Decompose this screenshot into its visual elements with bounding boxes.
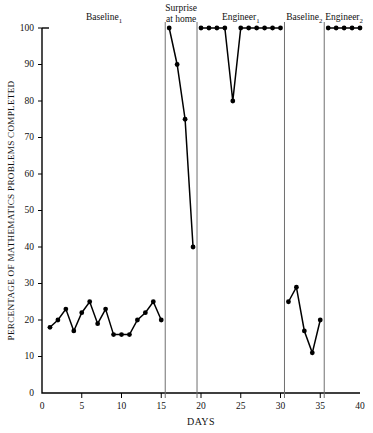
- phase-divider-lines: [165, 22, 324, 398]
- data-point-marker: [63, 307, 68, 312]
- series-line-engineer₁: [201, 28, 281, 101]
- data-point-marker: [310, 350, 315, 355]
- y-axis-tick-label: 20: [25, 315, 35, 325]
- phase-label: Baseline2: [286, 12, 323, 24]
- phase-label-line1: Surprise: [165, 3, 197, 13]
- x-axis-ticks: 0510152025303540: [40, 393, 365, 411]
- y-axis-tick-label: 40: [25, 242, 35, 252]
- phase-label: Engineer1: [222, 12, 260, 24]
- data-point-marker: [151, 299, 156, 304]
- data-point-marker: [270, 26, 275, 31]
- y-axis-ticks: 0102030405060708090100: [20, 23, 42, 398]
- data-point-marker: [183, 117, 188, 122]
- phase-label-line2: at home: [166, 14, 196, 24]
- y-axis-tick-label: 10: [25, 351, 35, 361]
- data-series-group: [48, 26, 363, 356]
- data-point-marker: [334, 26, 339, 31]
- data-point-marker: [79, 310, 84, 315]
- data-point-marker: [167, 26, 172, 31]
- data-point-marker: [350, 26, 355, 31]
- data-point-marker: [358, 26, 363, 31]
- series-line-baseline₂: [288, 287, 320, 353]
- data-point-marker: [159, 318, 164, 323]
- data-point-marker: [191, 245, 196, 250]
- axis-spines: [42, 28, 360, 393]
- x-axis-tick-label: 15: [157, 401, 167, 411]
- data-point-marker: [119, 332, 124, 337]
- data-point-marker: [286, 299, 291, 304]
- y-axis-tick-label: 80: [25, 96, 35, 106]
- data-point-marker: [215, 26, 220, 31]
- data-point-marker: [111, 332, 116, 337]
- data-point-marker: [71, 329, 76, 334]
- data-point-marker: [143, 310, 148, 315]
- data-point-marker: [318, 318, 323, 323]
- y-axis-title: PERCENTAGE OF MATHEMATICS PROBLEMS COMPL…: [6, 80, 16, 340]
- x-axis-tick-label: 25: [236, 401, 246, 411]
- data-point-marker: [56, 318, 61, 323]
- y-axis-tick-label: 30: [25, 278, 35, 288]
- data-point-marker: [342, 26, 347, 31]
- y-axis-tick-label: 100: [20, 23, 35, 33]
- data-point-marker: [87, 299, 92, 304]
- x-axis-tick-label: 40: [355, 401, 365, 411]
- y-axis-tick-label: 70: [25, 132, 35, 142]
- x-axis-tick-label: 10: [117, 401, 127, 411]
- x-axis-tick-label: 0: [40, 401, 45, 411]
- x-axis-tick-label: 30: [276, 401, 286, 411]
- data-point-marker: [326, 26, 331, 31]
- y-axis-tick-label: 60: [25, 169, 35, 179]
- data-point-marker: [222, 26, 227, 31]
- y-axis-tick-label: 90: [25, 59, 35, 69]
- y-axis-tick-label: 50: [25, 205, 35, 215]
- data-point-marker: [230, 99, 235, 104]
- data-point-marker: [278, 26, 283, 31]
- series-line-surprise-at-home: [169, 28, 193, 247]
- data-point-marker: [95, 321, 100, 326]
- x-axis-tick-label: 5: [79, 401, 84, 411]
- data-point-marker: [135, 318, 140, 323]
- phase-label: Baseline1: [86, 12, 122, 24]
- axes-group: [42, 28, 360, 393]
- phase-label: Engineer2: [325, 12, 363, 24]
- data-point-marker: [254, 26, 259, 31]
- line-chart-svg: 0102030405060708090100 0510152025303540 …: [0, 0, 373, 433]
- phase-labels-group: Baseline1Surpriseat homeEngineer1Baselin…: [86, 3, 364, 24]
- data-point-marker: [246, 26, 251, 31]
- data-point-marker: [207, 26, 212, 31]
- data-point-marker: [127, 332, 132, 337]
- y-axis-tick-label: 0: [29, 388, 34, 398]
- data-point-marker: [48, 325, 53, 330]
- x-axis-tick-label: 35: [316, 401, 326, 411]
- axis-titles-group: DAYSPERCENTAGE OF MATHEMATICS PROBLEMS C…: [6, 80, 215, 427]
- data-point-marker: [302, 329, 307, 334]
- data-point-marker: [262, 26, 267, 31]
- data-point-marker: [238, 26, 243, 31]
- chart-container: 0102030405060708090100 0510152025303540 …: [0, 0, 373, 433]
- x-axis-tick-label: 20: [196, 401, 206, 411]
- data-point-marker: [175, 62, 180, 67]
- data-point-marker: [199, 26, 204, 31]
- data-point-marker: [294, 285, 299, 290]
- data-point-marker: [103, 307, 108, 312]
- x-axis-title: DAYS: [187, 416, 215, 427]
